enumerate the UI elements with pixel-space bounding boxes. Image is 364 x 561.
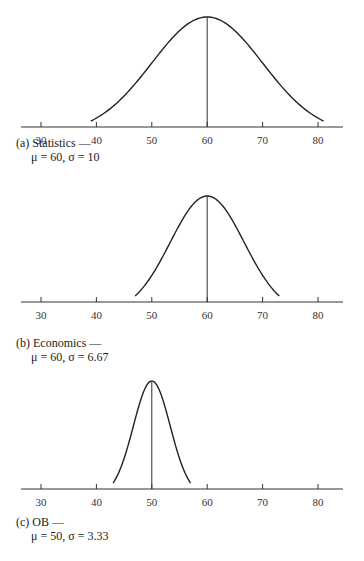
x-tick-label: 80: [313, 309, 325, 321]
x-tick-label: 30: [36, 309, 48, 321]
caption-c: (c) OB — μ = 50, σ = 3.33: [16, 515, 108, 543]
x-tick-label: 80: [313, 496, 325, 508]
x-tick-label: 60: [202, 309, 214, 321]
caption-a-line2: μ = 60, σ = 10: [16, 150, 99, 164]
x-tick-label: 70: [257, 134, 269, 146]
normal-distribution-charts: 304050607080304050607080304050607080: [0, 0, 364, 561]
caption-b-line1: (b) Economics —: [16, 336, 101, 350]
caption-a-line1: (a) Statistics —: [16, 136, 91, 150]
caption-c-line2: μ = 50, σ = 3.33: [16, 529, 108, 543]
x-tick-label: 50: [146, 309, 158, 321]
x-tick-label: 80: [313, 134, 325, 146]
x-tick-label: 40: [91, 496, 103, 508]
x-tick-label: 60: [202, 496, 214, 508]
caption-a: (a) Statistics — μ = 60, σ = 10: [16, 136, 99, 164]
x-tick-label: 50: [146, 134, 158, 146]
x-tick-label: 50: [146, 496, 158, 508]
caption-c-line1: (c) OB —: [16, 515, 64, 529]
x-tick-label: 60: [202, 134, 214, 146]
caption-b-line2: μ = 60, σ = 6.67: [16, 350, 108, 364]
x-tick-label: 30: [36, 496, 48, 508]
x-tick-label: 70: [257, 309, 269, 321]
x-tick-label: 40: [91, 309, 103, 321]
x-tick-label: 70: [257, 496, 269, 508]
caption-b: (b) Economics — μ = 60, σ = 6.67: [16, 336, 108, 364]
